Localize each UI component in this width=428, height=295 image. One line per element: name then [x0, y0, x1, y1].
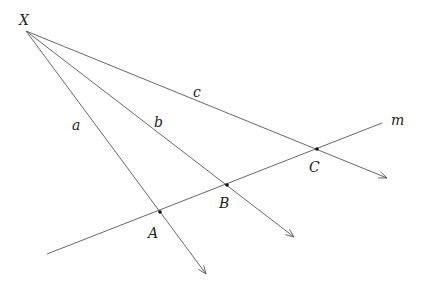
- label-B: B: [218, 195, 229, 211]
- label-C: C: [309, 159, 320, 175]
- ray-b: [26, 31, 294, 237]
- diagram-canvas: mabcXABC: [0, 0, 428, 295]
- point-B: [225, 183, 229, 187]
- label-c: c: [193, 84, 201, 100]
- point-A: [158, 210, 162, 214]
- label-m: m: [391, 112, 404, 128]
- line-m: [47, 123, 382, 254]
- geometry-figure: mabcXABC: [0, 0, 428, 295]
- label-X: X: [18, 12, 30, 28]
- label-a: a: [72, 117, 80, 133]
- label-A: A: [146, 225, 158, 241]
- label-b: b: [154, 114, 163, 130]
- point-C: [315, 147, 319, 151]
